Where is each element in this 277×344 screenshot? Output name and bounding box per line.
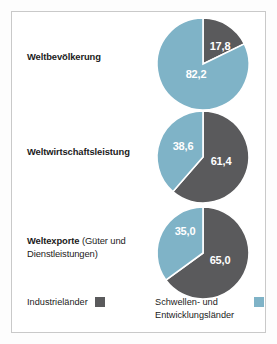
legend-swatch-industrialised-icon (95, 297, 105, 307)
pie-exports-value-industrialised: 65,0 (210, 254, 231, 266)
pie-population-value-emerging: 82,2 (186, 68, 207, 80)
pie-economy-value-emerging: 38,6 (173, 140, 194, 152)
pie-exports-slices (157, 207, 249, 299)
pie-population-slices (157, 18, 249, 110)
pie-economy-slices (157, 111, 249, 203)
infographic-figure: Weltbevölkerung 17,8 82,2 Weltwirtschaft… (0, 0, 277, 344)
legend-item-industrialised: Industrieländer (27, 296, 105, 309)
pie-chart-exports: 65,0 35,0 (156, 206, 250, 300)
pie-exports-value-emerging: 35,0 (175, 225, 196, 237)
legend-label-emerging: Schwellen- und Entwicklungsländer (155, 296, 247, 321)
row-label-exports: Weltexporte (Güter und Dienstleistungen) (27, 234, 155, 260)
legend-item-emerging: Schwellen- und Entwicklungsländer (155, 296, 264, 321)
pie-chart-population: 17,8 82,2 (156, 17, 250, 111)
row-label-exports-bold: Weltexporte (27, 235, 79, 246)
row-label-economy: Weltwirtschaftsleistung (27, 145, 155, 158)
pie-economy-svg: 61,4 38,6 (156, 110, 250, 204)
pie-population-value-industrialised: 17,8 (210, 40, 231, 52)
legend-swatch-emerging-icon (254, 297, 264, 307)
pie-chart-economy: 61,4 38,6 (156, 110, 250, 204)
row-label-economy-bold: Weltwirtschaftsleistung (27, 146, 130, 157)
pie-population-svg: 17,8 82,2 (156, 17, 250, 111)
pie-economy-value-industrialised: 61,4 (211, 155, 233, 167)
row-label-population-bold: Weltbevölkerung (27, 51, 101, 62)
row-label-population: Weltbevölkerung (27, 50, 155, 63)
pie-exports-svg: 65,0 35,0 (156, 206, 250, 300)
legend-label-industrialised: Industrieländer (27, 296, 88, 309)
